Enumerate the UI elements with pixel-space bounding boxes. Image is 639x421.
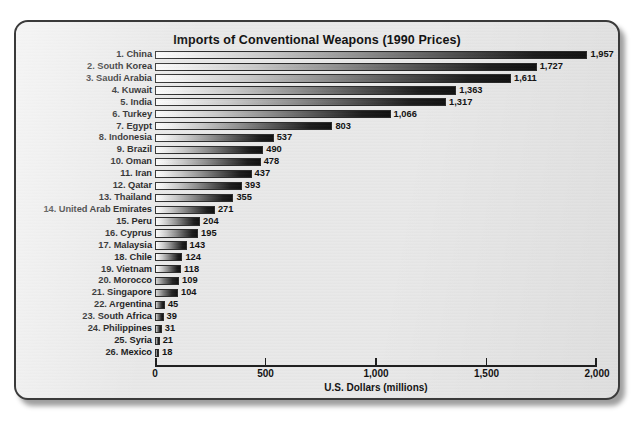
bar (155, 98, 446, 106)
bar (155, 289, 178, 297)
category-label: 19. Vietnam (16, 264, 152, 276)
category-label: 21. Singapore (16, 287, 152, 299)
value-label: 271 (218, 204, 234, 216)
category-label: 16. Cyprus (16, 228, 152, 240)
bar-row: 25. Syria21 (16, 335, 620, 347)
category-label: 1. China (16, 49, 152, 61)
bar (155, 170, 252, 178)
category-label: 17. Malaysia (16, 240, 152, 252)
category-label: 3. Saudi Arabia (16, 73, 152, 85)
value-label: 478 (264, 156, 280, 168)
bar-row: 20. Morocco109 (16, 275, 620, 287)
category-label: 24. Philippines (16, 323, 152, 335)
value-label: 31 (165, 323, 175, 335)
bar-row: 26. Mexico18 (16, 347, 620, 359)
bar-row: 2. South Korea1,727 (16, 61, 620, 73)
category-label: 14. United Arab Emirates (16, 204, 152, 216)
bar-row: 23. South Africa39 (16, 311, 620, 323)
category-label: 6. Turkey (16, 109, 152, 121)
value-label: 124 (185, 252, 201, 264)
value-label: 104 (181, 287, 197, 299)
value-label: 1,727 (540, 61, 563, 73)
value-label: 39 (167, 311, 177, 323)
value-label: 21 (163, 335, 173, 347)
x-axis-tick-label: 500 (257, 368, 274, 379)
x-axis-title: U.S. Dollars (millions) (155, 382, 597, 393)
x-axis-tick (486, 358, 488, 366)
bar-row: 18. Chile124 (16, 252, 620, 264)
category-label: 8. Indonesia (16, 132, 152, 144)
bar (155, 158, 261, 166)
bar-row: 13. Thailand355 (16, 192, 620, 204)
category-label: 11. Iran (16, 168, 152, 180)
x-axis-tick (595, 358, 597, 366)
bar (155, 337, 160, 345)
value-label: 1,957 (590, 49, 613, 61)
bar (155, 241, 187, 249)
chart-title: Imports of Conventional Weapons (1990 Pr… (16, 33, 618, 47)
value-label: 1,363 (459, 85, 482, 97)
bar-row: 21. Singapore104 (16, 287, 620, 299)
category-label: 9. Brazil (16, 144, 152, 156)
category-label: 4. Kuwait (16, 85, 152, 97)
bar (155, 182, 242, 190)
value-label: 45 (168, 299, 178, 311)
value-label: 18 (162, 347, 172, 359)
bar-row: 24. Philippines31 (16, 323, 620, 335)
bar (155, 110, 391, 118)
bar (155, 63, 537, 71)
bar (155, 325, 162, 333)
bar (155, 74, 511, 82)
x-axis-tick-label: 2,000 (584, 368, 609, 379)
bar-row: 12. Qatar393 (16, 180, 620, 192)
bar-row: 5. India1,317 (16, 97, 620, 109)
value-label: 1,317 (449, 97, 472, 109)
value-label: 109 (182, 275, 198, 287)
bar (155, 277, 179, 285)
bar (155, 217, 200, 225)
bar (155, 86, 456, 94)
x-axis-tick (155, 358, 157, 366)
bar-row: 15. Peru204 (16, 216, 620, 228)
x-axis-tick-label: 1,000 (363, 368, 388, 379)
category-label: 15. Peru (16, 216, 152, 228)
value-label: 1,611 (514, 73, 537, 85)
value-label: 490 (266, 144, 282, 156)
plot-area: 1. China1,9572. South Korea1,7273. Saudi… (16, 22, 620, 400)
bar (155, 51, 587, 59)
category-label: 22. Argentina (16, 299, 152, 311)
category-label: 23. South Africa (16, 311, 152, 323)
bar-row: 19. Vietnam118 (16, 264, 620, 276)
bar-row: 10. Oman478 (16, 156, 620, 168)
x-axis-tick-label: 0 (152, 368, 158, 379)
bar (155, 349, 159, 357)
bar (155, 229, 198, 237)
category-label: 12. Qatar (16, 180, 152, 192)
bar-row: 7. Egypt803 (16, 121, 620, 133)
x-axis-tick-label: 1,500 (474, 368, 499, 379)
value-label: 195 (201, 228, 217, 240)
bar-row: 9. Brazil490 (16, 144, 620, 156)
bar (155, 265, 181, 273)
bar (155, 206, 215, 214)
category-label: 20. Morocco (16, 275, 152, 287)
bar-row: 17. Malaysia143 (16, 240, 620, 252)
category-label: 26. Mexico (16, 347, 152, 359)
bar (155, 301, 165, 309)
chart-card: Imports of Conventional Weapons (1990 Pr… (14, 20, 620, 400)
bar-row: 8. Indonesia537 (16, 132, 620, 144)
category-label: 13. Thailand (16, 192, 152, 204)
category-label: 2. South Korea (16, 61, 152, 73)
bar (155, 253, 182, 261)
bar-row: 1. China1,957 (16, 49, 620, 61)
bar (155, 313, 164, 321)
value-label: 437 (255, 168, 271, 180)
value-label: 118 (184, 264, 199, 276)
bar-row: 3. Saudi Arabia1,611 (16, 73, 620, 85)
bar-row: 6. Turkey1,066 (16, 109, 620, 121)
bar-row: 4. Kuwait1,363 (16, 85, 620, 97)
value-label: 143 (190, 240, 206, 252)
category-label: 5. India (16, 97, 152, 109)
value-label: 537 (277, 132, 293, 144)
bar-row: 14. United Arab Emirates271 (16, 204, 620, 216)
